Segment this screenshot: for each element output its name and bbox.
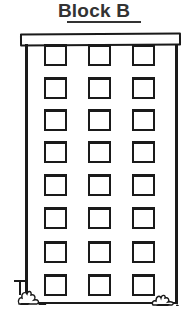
window-r4-c1 <box>44 141 67 163</box>
window-r7-c2 <box>88 241 111 263</box>
title-underline <box>67 21 141 23</box>
window-r1-c3 <box>132 44 155 66</box>
window-r3-c2 <box>88 109 111 131</box>
window-r8-c2 <box>88 274 111 296</box>
window-r5-c3 <box>132 174 155 196</box>
window-r6-c3 <box>132 207 155 229</box>
window-r7-c1 <box>44 241 67 263</box>
window-r1-c1 <box>44 44 67 66</box>
window-r3-c1 <box>44 109 67 131</box>
window-r2-c1 <box>44 77 67 99</box>
window-r4-c3 <box>132 141 155 163</box>
window-r5-c2 <box>88 174 111 196</box>
window-r3-c3 <box>132 109 155 131</box>
window-r6-c1 <box>44 207 67 229</box>
bush-right-icon <box>150 287 182 307</box>
bush-left-icon <box>16 284 48 306</box>
window-r1-c2 <box>88 44 111 66</box>
page-title: Block B <box>0 0 188 22</box>
window-r5-c1 <box>44 174 67 196</box>
window-r2-c2 <box>88 77 111 99</box>
window-r6-c2 <box>88 207 111 229</box>
window-r4-c2 <box>88 141 111 163</box>
window-r7-c3 <box>132 241 155 263</box>
window-r2-c3 <box>132 77 155 99</box>
